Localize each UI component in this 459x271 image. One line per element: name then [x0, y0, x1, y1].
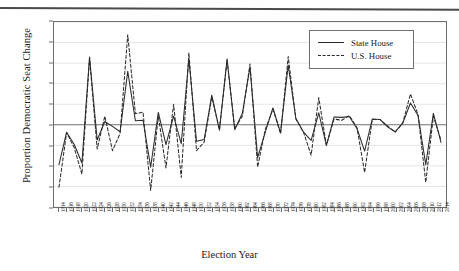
- x-tick-mark: [381, 208, 382, 212]
- x-tick-mark: [296, 208, 297, 212]
- x-tick-mark: [258, 208, 259, 212]
- x-tick-mark: [212, 208, 213, 212]
- figure-container: Proportion Democratic Seat Change 0.250.…: [0, 0, 459, 271]
- x-tick-mark: [235, 208, 236, 212]
- x-tick-mark: [342, 208, 343, 212]
- legend-line-solid-icon: [318, 39, 344, 47]
- x-tick-mark: [189, 208, 190, 212]
- x-tick-mark: [104, 208, 105, 212]
- x-tick-mark: [166, 208, 167, 212]
- x-tick-mark: [350, 208, 351, 212]
- x-tick-mark: [250, 208, 251, 212]
- x-tick-mark: [427, 208, 428, 212]
- x-tick-mark: [127, 208, 128, 212]
- x-tick-label: 2014: [444, 202, 450, 212]
- x-tick-mark: [442, 208, 443, 212]
- x-tick-mark: [181, 208, 182, 212]
- x-tick-mark: [158, 208, 159, 212]
- legend-label-state-house: State House: [351, 38, 393, 48]
- x-tick-mark: [150, 208, 151, 212]
- x-tick-mark: [112, 208, 113, 212]
- x-tick-mark: [358, 208, 359, 212]
- x-tick-mark: [66, 208, 67, 212]
- x-tick-mark: [81, 208, 82, 212]
- y-axis-title: Proportion Democratic Seat Change: [21, 6, 32, 206]
- x-tick-mark: [281, 208, 282, 212]
- x-tick-mark: [319, 208, 320, 212]
- x-axis-title: Election Year: [0, 249, 459, 260]
- x-tick-mark: [419, 208, 420, 212]
- x-tick-mark: [204, 208, 205, 212]
- x-tick-mark: [327, 208, 328, 212]
- x-tick-mark: [227, 208, 228, 212]
- x-tick-mark: [396, 208, 397, 212]
- x-tick-mark: [304, 208, 305, 212]
- chart-legend: State House U.S. House: [309, 30, 414, 69]
- header-rule: [0, 7, 459, 11]
- x-tick-mark: [373, 208, 374, 212]
- x-tick-mark: [135, 208, 136, 212]
- legend-line-dashed-icon: [318, 52, 344, 60]
- legend-item-us-house: U.S. House: [318, 49, 407, 62]
- x-tick-mark: [273, 208, 274, 212]
- x-tick-mark: [404, 208, 405, 212]
- legend-label-us-house: U.S. House: [351, 51, 391, 61]
- legend-item-state-house: State House: [318, 36, 407, 49]
- x-tick-mark: [58, 208, 59, 212]
- x-tick-mark: [89, 208, 90, 212]
